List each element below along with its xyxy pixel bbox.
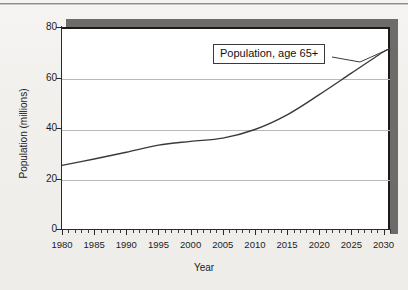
y-tick-label-40: 40 xyxy=(33,123,57,133)
x-tick-2004 xyxy=(216,229,217,233)
x-tick-2012 xyxy=(268,229,269,233)
x-tick-2003 xyxy=(210,229,211,233)
x-tick-1997 xyxy=(171,229,172,233)
x-tick-1987 xyxy=(107,229,108,233)
x-tick-2027 xyxy=(364,229,365,233)
x-tick-2009 xyxy=(249,229,250,233)
x-tick-2015 xyxy=(287,229,288,235)
plot-frame-shadow-top xyxy=(66,19,392,27)
x-tick-group xyxy=(0,229,408,236)
x-tick-2024 xyxy=(345,229,346,233)
x-tick-2020 xyxy=(319,229,320,235)
x-tick-2023 xyxy=(339,229,340,233)
annotation-callout-population-65plus: Population, age 65+ xyxy=(213,44,325,64)
x-tick-2002 xyxy=(203,229,204,233)
x-tick-2016 xyxy=(294,229,295,233)
x-tick-2026 xyxy=(358,229,359,233)
x-tick-2028 xyxy=(371,229,372,233)
x-tick-2001 xyxy=(197,229,198,233)
x-tick-1986 xyxy=(101,229,102,233)
scanned-page: 020406080 198019851990199520002005201020… xyxy=(0,0,408,290)
x-tick-2030 xyxy=(384,229,385,235)
x-tick-1992 xyxy=(139,229,140,233)
x-tick-1982 xyxy=(75,229,76,233)
y-tick-label-20: 20 xyxy=(33,174,57,184)
x-tick-1989 xyxy=(120,229,121,233)
x-tick-2025 xyxy=(351,229,352,235)
x-tick-2008 xyxy=(242,229,243,233)
x-tick-1985 xyxy=(94,229,95,235)
x-tick-label-group: 1980198519901995200020052010201520202025… xyxy=(0,239,408,251)
x-tick-1988 xyxy=(113,229,114,233)
x-tick-2022 xyxy=(332,229,333,233)
y-axis-line xyxy=(61,26,62,230)
x-tick-1996 xyxy=(165,229,166,233)
x-tick-1981 xyxy=(68,229,69,233)
y-axis-title: Population (millions) xyxy=(18,64,29,204)
x-tick-2011 xyxy=(261,229,262,233)
x-tick-2007 xyxy=(236,229,237,233)
x-tick-2031 xyxy=(390,229,391,233)
x-tick-1980 xyxy=(62,229,63,235)
x-tick-1991 xyxy=(133,229,134,233)
y-tick-label-60: 60 xyxy=(33,73,57,83)
x-tick-2006 xyxy=(229,229,230,233)
population-line-chart: 020406080 198019851990199520002005201020… xyxy=(0,0,408,290)
x-tick-2014 xyxy=(281,229,282,233)
x-tick-label-2030: 2030 xyxy=(364,239,404,250)
x-tick-1998 xyxy=(178,229,179,233)
x-tick-1993 xyxy=(146,229,147,233)
x-tick-2005 xyxy=(223,229,224,235)
plot-frame-shadow-right xyxy=(390,19,398,234)
x-tick-2013 xyxy=(274,229,275,233)
x-tick-2010 xyxy=(255,229,256,235)
x-tick-2000 xyxy=(191,229,192,235)
x-tick-2019 xyxy=(313,229,314,233)
x-axis-title: Year xyxy=(0,262,408,273)
y-tick-label-80: 80 xyxy=(33,22,57,32)
x-tick-1995 xyxy=(158,229,159,235)
y-tick-mark-80 xyxy=(56,27,61,28)
y-tick-mark-40 xyxy=(56,128,61,129)
x-tick-2029 xyxy=(377,229,378,233)
y-tick-mark-0 xyxy=(56,229,61,230)
x-tick-1990 xyxy=(126,229,127,235)
x-tick-2018 xyxy=(306,229,307,233)
x-tick-2017 xyxy=(300,229,301,233)
x-tick-2021 xyxy=(326,229,327,233)
y-tick-mark-60 xyxy=(56,78,61,79)
x-tick-1999 xyxy=(184,229,185,233)
x-tick-1994 xyxy=(152,229,153,233)
x-tick-1983 xyxy=(81,229,82,233)
x-tick-1984 xyxy=(88,229,89,233)
y-tick-mark-20 xyxy=(56,179,61,180)
